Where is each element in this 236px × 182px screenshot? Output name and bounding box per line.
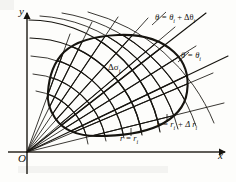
label-theta-outer-text: θ = θ xyxy=(155,12,173,22)
label-area-element: Δσi xyxy=(108,63,120,74)
figure-canvas xyxy=(0,0,236,182)
label-r-inner: r = ri xyxy=(120,134,138,145)
leader-lines-group xyxy=(131,12,189,136)
polar-partition-figure: θ = θi + Δθi θ = θi r = ri + Δ ri r = ri… xyxy=(0,0,236,182)
label-theta-inner-text: θ = θ xyxy=(181,50,199,60)
label-theta-outer-sub2: i xyxy=(194,18,196,24)
label-r-inner-text: r = r xyxy=(120,133,137,143)
label-area-element-text: Δσ xyxy=(108,62,119,72)
label-theta-outer-plus: + Δθ xyxy=(175,12,194,22)
label-r-outer-text: r = r xyxy=(157,119,174,129)
label-area-element-sub: i xyxy=(119,67,121,74)
interior-grid-group xyxy=(27,13,228,152)
radial-rays-group xyxy=(27,13,228,152)
label-theta-inner-sub1: i xyxy=(199,56,201,62)
label-theta-outer: θ = θi + Δθi xyxy=(155,13,195,24)
label-r-inner-sub1: i xyxy=(137,139,139,145)
polar-arc xyxy=(88,12,214,123)
origin-label: O xyxy=(18,153,26,164)
label-r-outer: r = ri + Δ ri xyxy=(157,120,197,131)
axes-group xyxy=(8,13,225,174)
label-r-outer-plus: + Δ r xyxy=(175,119,195,129)
x-axis-label: x xyxy=(218,150,223,161)
y-axis-label: y xyxy=(19,6,24,17)
label-r-outer-sub2: i xyxy=(196,125,198,131)
label-theta-inner: θ = θi xyxy=(181,51,201,62)
